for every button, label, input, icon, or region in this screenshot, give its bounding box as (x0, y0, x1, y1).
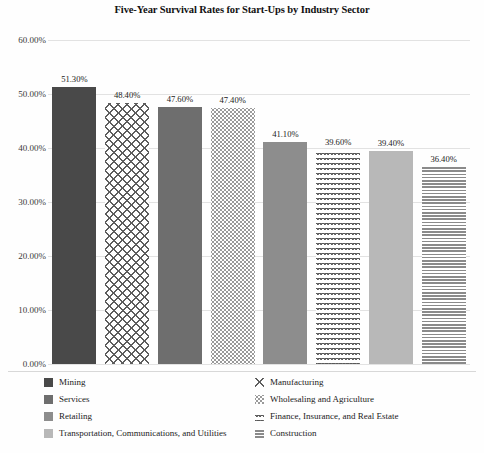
bars-layer: 51.30%48.40%47.60%47.40%41.10%39.60%39.4… (48, 40, 470, 364)
bar-value-label: 51.30% (46, 74, 102, 84)
bar[interactable] (369, 151, 413, 364)
legend-item[interactable]: Construction (255, 425, 480, 442)
legend-label: Construction (270, 429, 317, 438)
chart-title: Five-Year Survival Rates for Start-Ups b… (0, 4, 484, 15)
y-axis-tick-label: 60.00% (2, 35, 46, 45)
bar[interactable] (263, 142, 307, 364)
legend-item[interactable]: Finance, Insurance, and Real Estate (255, 408, 480, 425)
legend-item[interactable]: Mining (44, 374, 256, 391)
bar-value-label: 41.10% (257, 129, 313, 139)
y-axis-tick-label: 30.00% (2, 197, 46, 207)
legend-column-left: MiningServicesRetailingTransportation, C… (44, 374, 256, 442)
bar[interactable] (422, 167, 466, 364)
legend-item[interactable]: Wholesaling and Agriculture (255, 391, 480, 408)
bar-group[interactable]: 39.40% (369, 40, 413, 364)
legend-item[interactable]: Services (44, 391, 256, 408)
bar-value-label: 48.40% (99, 90, 155, 100)
bar-value-label: 36.40% (416, 154, 472, 164)
bar-group[interactable]: 47.40% (211, 40, 255, 364)
y-axis-tick-label: 20.00% (2, 251, 46, 261)
legend-swatch-icon (44, 412, 53, 421)
bar-group[interactable]: 36.40% (422, 40, 466, 364)
y-axis-tick-label: 10.00% (2, 305, 46, 315)
legend-item[interactable]: Manufacturing (255, 374, 480, 391)
legend-label: Retailing (59, 412, 92, 421)
legend-swatch-icon (255, 429, 264, 438)
legend-swatch-icon (44, 378, 53, 387)
legend-label: Mining (59, 378, 86, 387)
bar-group[interactable]: 48.40% (105, 40, 149, 364)
bar-value-label: 47.40% (205, 95, 261, 105)
legend-swatch-icon (44, 395, 53, 404)
gridline (48, 364, 470, 365)
bar-group[interactable]: 41.10% (263, 40, 307, 364)
legend-label: Finance, Insurance, and Real Estate (270, 412, 398, 421)
legend-divider (8, 371, 476, 372)
legend-column-right: ManufacturingWholesaling and Agriculture… (255, 374, 480, 442)
bar-group[interactable]: 51.30% (52, 40, 96, 364)
legend-swatch-icon (255, 395, 264, 404)
legend-item[interactable]: Retailing (44, 408, 256, 425)
y-axis-tick-label: 40.00% (2, 143, 46, 153)
bar-value-label: 39.40% (363, 138, 419, 148)
chart-legend: MiningServicesRetailingTransportation, C… (0, 374, 484, 448)
y-axis-tick-label: 0.00% (2, 359, 46, 369)
y-axis-tick-label: 50.00% (2, 89, 46, 99)
legend-item[interactable]: Transportation, Communications, and Util… (44, 425, 256, 442)
bar-value-label: 39.60% (310, 137, 366, 147)
bar[interactable] (105, 103, 149, 364)
bar[interactable] (316, 150, 360, 364)
y-axis: 60.00%50.00%40.00%30.00%20.00%10.00%0.00… (0, 40, 46, 364)
bar[interactable] (211, 108, 255, 364)
bar-group[interactable]: 39.60% (316, 40, 360, 364)
legend-swatch-icon (44, 429, 53, 438)
legend-swatch-icon (255, 412, 264, 421)
chart-container: Five-Year Survival Rates for Start-Ups b… (0, 0, 484, 453)
bar[interactable] (158, 107, 202, 364)
legend-swatch-icon (255, 378, 264, 387)
bar-group[interactable]: 47.60% (158, 40, 202, 364)
bar-value-label: 47.60% (152, 94, 208, 104)
legend-label: Wholesaling and Agriculture (270, 395, 374, 404)
legend-label: Services (59, 395, 90, 404)
legend-label: Manufacturing (270, 378, 323, 387)
legend-label: Transportation, Communications, and Util… (59, 429, 226, 438)
bar[interactable] (52, 87, 96, 364)
